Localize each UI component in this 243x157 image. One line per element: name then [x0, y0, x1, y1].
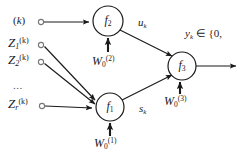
edge-group-bias [108, 38, 180, 136]
diagram-vector-layer [0, 0, 243, 157]
input-terminal-dots [38, 19, 44, 108]
terminal-dot-z1 [38, 42, 43, 47]
edge-z1-to-f1 [45, 47, 96, 101]
edge-zr-to-f1 [45, 106, 92, 108]
bias-label-w0-1: W0(1) [94, 137, 116, 150]
edge-group-inputs [44, 22, 95, 108]
node-label-f2: f2 [98, 14, 118, 27]
input-label-zr: Zr(k) [8, 97, 28, 112]
terminal-dot-z2 [38, 59, 43, 64]
input-label-z2: Z2(k) [8, 53, 29, 68]
edge-f2-to-f3 [120, 30, 172, 56]
bias-label-w0-3: W0(3) [164, 95, 186, 108]
input-ellipsis: ... [13, 80, 23, 91]
terminal-dot-k [38, 19, 43, 24]
output-label-yk: yk ∈ {0, [185, 28, 222, 40]
input-label-k: (k) [13, 15, 25, 26]
signal-label-uk: uk [138, 17, 147, 29]
node-label-f3: f3 [172, 59, 192, 72]
node-label-f1: f1 [100, 100, 120, 113]
edge-z2-to-f1 [45, 64, 96, 105]
signal-label-sk: sk [139, 103, 146, 115]
diagram-canvas: f2 f1 f3 (k) Z1(k) Z2(k) ... Zr(k) W0(2)… [0, 0, 243, 157]
terminal-dot-zr [39, 103, 44, 108]
input-label-z1: Z1(k) [8, 36, 29, 51]
bias-label-w0-2: W0(2) [92, 55, 114, 68]
